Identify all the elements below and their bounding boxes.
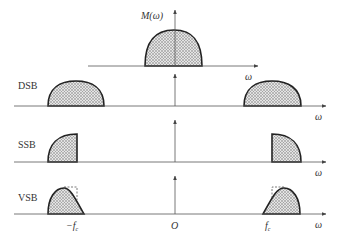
ssb-label: SSB [18, 139, 36, 150]
dsb-right-lobe [244, 81, 301, 106]
ssb-right-sideband [272, 134, 301, 162]
vsb-label: VSB [18, 192, 38, 203]
vsb-panel: VSB ω −fc O fc [14, 176, 326, 232]
vsb-x-label: ω [315, 219, 322, 230]
baseband-panel: M(ω) ω [88, 10, 258, 82]
dsb-label: DSB [18, 80, 38, 91]
baseband-spectrum [145, 30, 202, 66]
vsb-right-sideband [263, 188, 300, 214]
baseband-y-label: M(ω) [140, 10, 164, 22]
origin-label: O [171, 220, 178, 231]
ssb-left-sideband [48, 134, 77, 162]
ssb-panel: SSB ω [14, 120, 326, 178]
neg-fc-tick-label: −fc [66, 220, 79, 232]
vsb-left-sideband [48, 188, 84, 214]
dsb-x-label: ω [315, 111, 322, 122]
dsb-left-lobe [48, 81, 104, 106]
ssb-x-label: ω [315, 167, 322, 178]
modulation-spectra-diagram: M(ω) ω DSB ω SSB ω VSB ω −fc O fc [0, 0, 338, 246]
baseband-x-label: ω [245, 71, 252, 82]
pos-fc-tick-label: fc [265, 220, 271, 232]
dsb-panel: DSB ω [14, 74, 326, 122]
